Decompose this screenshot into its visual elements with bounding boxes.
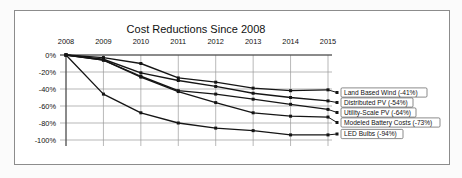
x-axis-tick-labels: 20082009201020112012201320142015 bbox=[58, 37, 336, 46]
data-point-marker bbox=[214, 101, 217, 104]
series-line bbox=[66, 55, 328, 109]
data-point-marker bbox=[289, 115, 292, 118]
data-point-marker bbox=[177, 122, 180, 125]
data-point-marker bbox=[252, 98, 255, 101]
data-point-marker bbox=[139, 111, 142, 114]
figure-canvas: 0%-20%-40%-60%-80%-100% 2008200920102011… bbox=[0, 0, 462, 178]
legend-leader-marker bbox=[336, 91, 339, 94]
data-point-marker bbox=[214, 93, 217, 96]
y-tick-label: 0% bbox=[45, 51, 56, 60]
data-point-marker bbox=[289, 103, 292, 106]
data-point-marker bbox=[214, 85, 217, 88]
legend-leader-marker bbox=[336, 133, 339, 136]
legend-item-label: Land Based Wind (-41%) bbox=[344, 89, 418, 97]
legend-item[interactable]: Utility-Scale PV (-64%) bbox=[341, 108, 416, 117]
x-tick-label: 2015 bbox=[320, 37, 336, 46]
x-tick-label: 2012 bbox=[207, 37, 223, 46]
data-point-marker bbox=[252, 92, 255, 95]
data-point-marker bbox=[289, 89, 292, 92]
data-point-marker bbox=[252, 87, 255, 90]
y-tick-label: -20% bbox=[39, 68, 57, 77]
x-tick-label: 2010 bbox=[133, 37, 149, 46]
chart-title: Cost Reductions Since 2008 bbox=[127, 23, 266, 35]
data-point-marker bbox=[289, 96, 292, 99]
legend-item[interactable]: Distributed PV (-54%) bbox=[341, 98, 413, 107]
data-point-marker bbox=[102, 59, 105, 62]
x-tick-label: 2009 bbox=[95, 37, 111, 46]
data-point-marker bbox=[102, 93, 105, 96]
y-tick-label: -40% bbox=[39, 85, 57, 94]
x-tick-label: 2008 bbox=[58, 37, 74, 46]
data-point-marker bbox=[65, 54, 68, 57]
data-point-marker bbox=[252, 111, 255, 114]
y-axis-tick-labels: 0%-20%-40%-60%-80%-100% bbox=[35, 51, 57, 145]
data-point-marker bbox=[214, 81, 217, 84]
legend-item-label: Distributed PV (-54%) bbox=[344, 99, 408, 107]
legend-item-label: Modeled Battery Costs (-73%) bbox=[344, 119, 432, 127]
x-tick-label: 2014 bbox=[282, 37, 298, 46]
x-tick-label: 2013 bbox=[245, 37, 261, 46]
legend-leader-marker bbox=[336, 121, 339, 124]
line-chart: 0%-20%-40%-60%-80%-100% 2008200920102011… bbox=[0, 0, 462, 178]
legend-callouts-group: Land Based Wind (-41%)Distributed PV (-5… bbox=[328, 88, 440, 139]
legend-item[interactable]: LED Bulbs (-94%) bbox=[341, 129, 403, 138]
series-line bbox=[66, 55, 328, 117]
series-line bbox=[66, 55, 328, 101]
series-markers-group bbox=[65, 54, 330, 137]
data-point-marker bbox=[177, 90, 180, 93]
data-point-marker bbox=[252, 129, 255, 132]
data-point-marker bbox=[214, 127, 217, 130]
legend-item-label: LED Bulbs (-94%) bbox=[344, 130, 397, 138]
y-tick-label: -60% bbox=[39, 102, 57, 111]
data-point-marker bbox=[177, 79, 180, 82]
data-point-marker bbox=[139, 71, 142, 74]
axes-group bbox=[60, 55, 332, 146]
legend-item[interactable]: Land Based Wind (-41%) bbox=[341, 88, 427, 97]
y-tick-label: -80% bbox=[39, 119, 57, 128]
legend-item-label: Utility-Scale PV (-64%) bbox=[344, 109, 411, 117]
y-tick-label: -100% bbox=[35, 136, 57, 145]
data-point-marker bbox=[139, 76, 142, 79]
gridlines-group bbox=[60, 55, 332, 146]
legend-leader-marker bbox=[336, 101, 339, 104]
legend-item[interactable]: Modeled Battery Costs (-73%) bbox=[341, 118, 440, 127]
legend-leader-marker bbox=[336, 111, 339, 114]
data-point-marker bbox=[139, 62, 142, 65]
data-point-marker bbox=[289, 133, 292, 136]
x-tick-label: 2011 bbox=[170, 37, 186, 46]
